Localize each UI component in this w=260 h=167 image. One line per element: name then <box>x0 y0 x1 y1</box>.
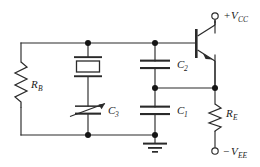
transistor-q1 <box>195 25 215 61</box>
ground-bar-1 <box>143 143 167 145</box>
node-emitter <box>152 85 158 91</box>
node-bottom-left <box>85 132 91 138</box>
node-ground <box>152 132 158 138</box>
terminal-vcc-circle <box>212 13 218 19</box>
terminal-vee-subscript: EE <box>237 151 248 160</box>
resistor-rb <box>15 62 27 108</box>
terminal-vcc <box>212 13 218 19</box>
capacitor-c2 <box>140 60 170 70</box>
schematic-canvas: R B R E C 3 <box>0 0 260 167</box>
resistor-rb-label: R <box>30 78 38 90</box>
ground-bar-3 <box>152 151 158 153</box>
ground <box>143 143 167 153</box>
resistor-rb-zigzag <box>15 62 27 108</box>
capacitor-c2-plate-top <box>140 60 170 62</box>
resistor-re-zigzag <box>209 104 221 132</box>
crystal <box>74 56 102 77</box>
terminal-vcc-subscript: CC <box>238 15 249 24</box>
ground-bar-2 <box>148 147 162 149</box>
crystal-plate-bottom <box>74 75 102 77</box>
circuit-diagram: R B R E C 3 <box>0 0 260 167</box>
transistor-collector-lead <box>198 25 215 36</box>
crystal-plate-top <box>74 56 102 58</box>
node-re-top <box>212 85 218 91</box>
capacitor-c1-plate-top <box>140 106 170 108</box>
capacitor-c3-subscript: 3 <box>114 110 119 119</box>
crystal-body <box>77 61 100 72</box>
terminal-vee-sign: − <box>223 145 229 157</box>
resistor-re-subscript: E <box>232 113 238 122</box>
capacitor-c2-subscript: 2 <box>184 64 188 73</box>
node-top-c2 <box>152 40 158 46</box>
resistor-rb-subscript: B <box>38 84 43 93</box>
capacitor-c1 <box>140 106 170 116</box>
transistor-base-bar <box>195 29 198 58</box>
resistor-re <box>209 104 221 132</box>
capacitor-c3 <box>70 104 105 117</box>
capacitor-c2-plate-bottom <box>140 67 170 69</box>
junction-dots <box>85 40 218 138</box>
capacitor-c1-subscript: 1 <box>184 110 188 119</box>
terminal-vee-circle <box>212 148 218 154</box>
terminal-vcc-sign: + <box>224 9 230 21</box>
terminal-vee <box>212 148 218 154</box>
capacitor-c1-plate-bottom <box>140 113 170 115</box>
node-top-crystal <box>85 40 91 46</box>
resistor-re-label: R <box>225 107 233 119</box>
